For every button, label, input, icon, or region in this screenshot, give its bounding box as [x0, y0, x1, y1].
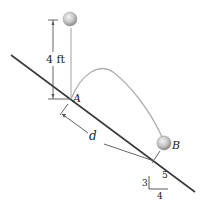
slope-hyp: 5: [162, 170, 168, 180]
ball-landing: [157, 136, 171, 150]
distance-label: d: [89, 129, 97, 143]
projectile-diagram: 4 ft A B d 3 4 5: [0, 0, 208, 206]
height-label: 4 ft: [46, 53, 66, 66]
slope-rise: 3: [142, 178, 148, 188]
point-a-label: A: [72, 92, 81, 105]
trajectory-arc: [71, 69, 162, 137]
slope-run: 4: [157, 191, 163, 201]
height-dimension: 4 ft: [44, 20, 71, 99]
point-b-label: B: [171, 139, 180, 152]
ball-initial: [63, 12, 77, 26]
slope-triangle: 3 4 5: [142, 170, 168, 201]
